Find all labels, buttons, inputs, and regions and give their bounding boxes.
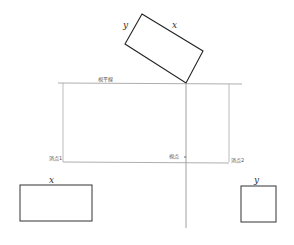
- plan-label-x: x: [172, 20, 177, 30]
- vanishing-point-1-label: 消点1: [49, 155, 62, 162]
- viewpoint-label: 視点: [169, 153, 179, 160]
- plan-label-y: y: [122, 20, 129, 30]
- horizon-line-label: 視平線: [98, 76, 113, 83]
- elevation-x-label: x: [49, 175, 54, 185]
- horizon-line: [63, 162, 229, 163]
- vanishing-point-2-label: 消点2: [231, 157, 244, 164]
- elevation-y-label: y: [253, 175, 260, 185]
- elevation-y-rectangle: [241, 186, 276, 222]
- elevation-x-rectangle: [20, 185, 92, 221]
- plan-rectangle: [125, 14, 203, 83]
- picture-plane-line: [58, 83, 242, 84]
- perspective-diagram: y x 視平線 消点1 視点 消点2 x y: [0, 0, 294, 245]
